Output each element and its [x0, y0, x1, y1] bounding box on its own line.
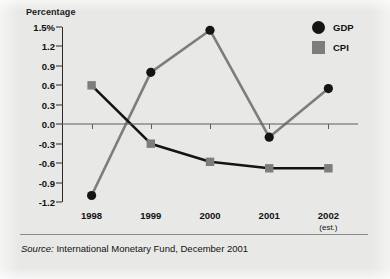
y-tick-label: 0.0 [42, 119, 55, 130]
data-point-cpi [206, 158, 214, 166]
x-axis-label: 1998 [81, 210, 102, 221]
y-tick-label: 0.9 [42, 60, 55, 71]
y-tick-label: -0.9 [39, 177, 55, 188]
x-axis-label: 2002(est.) [318, 210, 339, 232]
data-point-cpi [87, 81, 95, 89]
gdp-marker-icon [312, 21, 325, 34]
y-tick-label: 1.5% [33, 22, 55, 33]
legend: GDP CPI [312, 19, 354, 59]
data-point-gdp [324, 84, 333, 93]
legend-label-cpi: CPI [333, 42, 349, 53]
chart-figure: Percentage 1.5%1.20.90.60.30.0-0.3-0.6-0… [0, 0, 390, 279]
data-point-cpi [265, 164, 273, 172]
data-point-gdp [265, 133, 274, 142]
y-axis-title: Percentage [26, 7, 76, 17]
x-axis-label: 2001 [259, 210, 280, 221]
source-text: International Monetary Fund, December 20… [56, 243, 248, 254]
y-tick-label: 1.2 [42, 41, 55, 52]
data-point-cpi [147, 139, 155, 147]
footer-divider [20, 234, 368, 235]
y-tick-label: 0.6 [42, 80, 55, 91]
legend-item-cpi: CPI [312, 39, 354, 56]
y-tick-label: -0.6 [39, 158, 55, 169]
data-point-gdp [87, 191, 96, 200]
data-point-gdp [205, 26, 214, 35]
y-tick-label: 0.3 [42, 99, 55, 110]
legend-item-gdp: GDP [312, 19, 354, 36]
data-point-cpi [324, 164, 332, 172]
source-caption: Source: International Monetary Fund, Dec… [21, 243, 248, 254]
source-keyword: Source: [21, 243, 54, 254]
cpi-marker-icon [312, 41, 325, 54]
x-axis-label: 2000 [199, 210, 220, 221]
legend-label-gdp: GDP [333, 22, 354, 33]
data-point-gdp [146, 68, 155, 77]
x-axis-label: 1999 [140, 210, 161, 221]
y-tick-label: -1.2 [39, 197, 55, 208]
zero-baseline [62, 124, 358, 125]
series-line-gdp [92, 30, 329, 195]
x-axis-sublabel: (est.) [318, 223, 339, 232]
y-tick-label: -0.3 [39, 138, 55, 149]
series-line-cpi [92, 85, 329, 168]
